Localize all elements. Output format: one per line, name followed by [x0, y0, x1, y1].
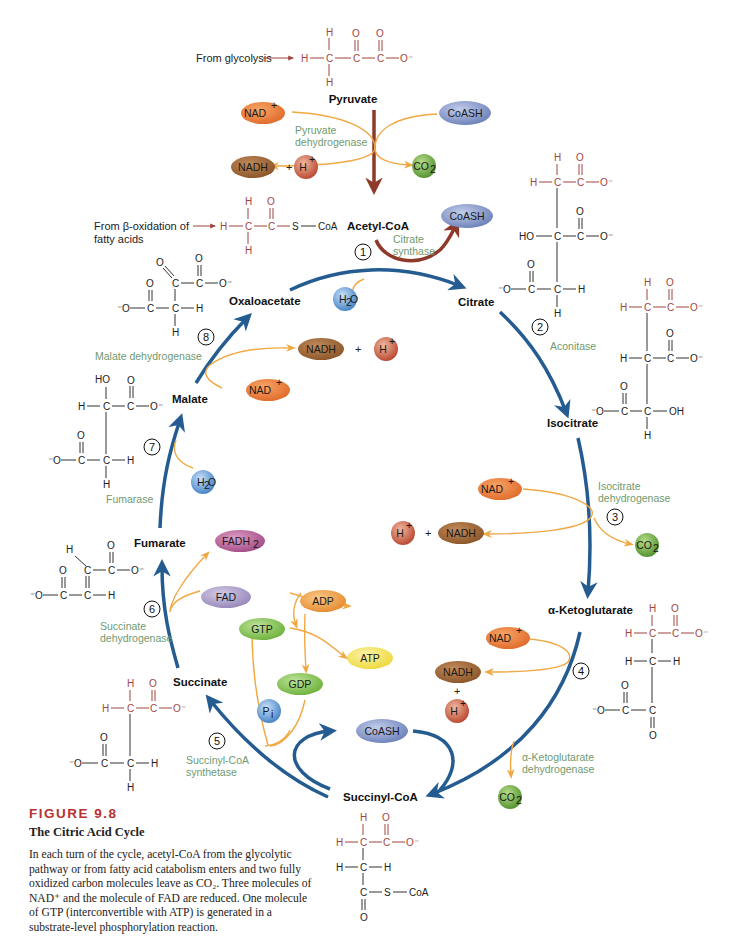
svg-text:C: C [644, 302, 651, 313]
svg-text:GTP: GTP [251, 623, 273, 635]
succinate-dehydrogenase-label: Succinate dehydrogenase [100, 620, 173, 644]
svg-text:⁻O: ⁻O [69, 758, 82, 769]
svg-text:C: C [649, 656, 656, 667]
svg-text:Succinyl-CoA: Succinyl-CoA [186, 754, 249, 766]
svg-text:O⁻: O⁻ [219, 278, 232, 289]
step-1-cycle-arrow [290, 270, 460, 290]
svg-text:2: 2 [537, 321, 543, 333]
svg-text:+: + [508, 475, 514, 487]
intermediate-malate: Malate [172, 393, 208, 405]
svg-text:C: C [644, 353, 651, 364]
svg-text:H: H [127, 782, 134, 793]
svg-text:O: O [350, 293, 358, 305]
svg-text:O⁻: O⁻ [400, 53, 413, 64]
svg-text:FADH: FADH [222, 535, 250, 547]
svg-text:C: C [127, 703, 134, 714]
svg-text:O⁻: O⁻ [600, 177, 613, 188]
intermediate-succinyl-coa: Succinyl-CoA [343, 791, 418, 803]
fumarase-label: Fumarase [106, 493, 153, 505]
svg-text:H: H [127, 455, 134, 466]
svg-text:+: + [276, 376, 282, 388]
svg-text:O: O [620, 381, 628, 392]
svg-text:S: S [384, 887, 391, 898]
svg-text:C: C [103, 401, 110, 412]
citrate-structure: H C H C O O⁻ HO C C O O⁻ ⁻O C O C H H [498, 152, 613, 319]
intermediate-acetyl-coa: Acetyl-CoA [347, 220, 409, 232]
svg-text:H: H [151, 758, 158, 769]
svg-text:H: H [220, 221, 227, 232]
svg-text:NADH: NADH [238, 161, 268, 173]
svg-text:H: H [450, 705, 458, 717]
svg-text:H: H [66, 544, 73, 555]
svg-text:C: C [360, 887, 367, 898]
svg-text:H: H [326, 77, 333, 88]
svg-text:O: O [527, 259, 535, 270]
svg-text:CoASH: CoASH [447, 107, 482, 119]
step-5-marker: 5 [209, 733, 225, 749]
h2o-ball-step7: H 2 O [191, 470, 216, 494]
svg-text:Pyruvate: Pyruvate [295, 124, 337, 136]
svg-text:H: H [396, 527, 404, 539]
step-7-cycle-arrow [160, 420, 180, 528]
svg-text:O: O [671, 603, 679, 614]
svg-text:C: C [172, 303, 179, 314]
svg-text:H: H [379, 343, 387, 355]
intermediate-succinate: Succinate [173, 676, 227, 688]
svg-text:O⁻: O⁻ [695, 628, 708, 639]
svg-text:H: H [172, 327, 179, 338]
svg-text:H: H [245, 245, 252, 256]
svg-text:H: H [530, 177, 537, 188]
svg-text:O⁻: O⁻ [600, 231, 613, 242]
svg-text:NAD: NAD [489, 632, 512, 644]
svg-text:C: C [196, 278, 203, 289]
svg-text:O: O [156, 257, 164, 268]
svg-text:Succinate: Succinate [100, 620, 146, 632]
svg-text:C: C [84, 565, 91, 576]
h-plus-ball-step3: H + [391, 519, 415, 545]
svg-text:O: O [100, 732, 108, 743]
svg-text:O: O [77, 430, 85, 441]
svg-text:NAD: NAD [249, 384, 272, 396]
co2-ball-step3: CO 2 [635, 533, 659, 557]
svg-text:ATP: ATP [360, 652, 380, 664]
svg-text:C: C [554, 177, 561, 188]
isocitrate-structure: H C H C O O⁻ H C C O O⁻ ⁻O C O C OH H [591, 277, 703, 441]
alpha-kg-dehydrogenase-label: α-Ketoglutarate dehydrogenase [522, 751, 595, 775]
intermediate-pyruvate: Pyruvate [329, 93, 378, 105]
svg-text:C: C [672, 628, 679, 639]
svg-text:H: H [644, 277, 651, 288]
svg-text:+: + [516, 624, 522, 636]
svg-text:2: 2 [516, 794, 522, 806]
svg-text:CO: CO [413, 160, 429, 172]
svg-text:2: 2 [430, 163, 436, 175]
fad-pill: FAD [201, 586, 251, 608]
svg-text:C: C [644, 406, 651, 417]
plus-sign: + [286, 161, 292, 173]
svg-text:CoASH: CoASH [364, 725, 399, 737]
svg-text:From glycolysis: From glycolysis [196, 52, 272, 64]
nadh-pill-step8: NADH [298, 338, 344, 360]
h2o-ball-step1: H 2 O [333, 287, 358, 311]
svg-text:H: H [326, 27, 333, 38]
svg-text:C: C [78, 455, 85, 466]
svg-text:O⁻: O⁻ [690, 353, 703, 364]
coash-pill-pdh: CoASH [439, 101, 491, 125]
svg-text:C: C [60, 590, 67, 601]
svg-text:C: C [150, 703, 157, 714]
coash-pill-step5: CoASH [356, 719, 408, 743]
intermediate-oxaloacetate: Oxaloacetate [229, 295, 301, 307]
svg-text:H: H [245, 196, 252, 207]
svg-text:C: C [268, 221, 275, 232]
svg-text:O: O [376, 28, 384, 39]
succinyl-coa-structure: H C H C O O⁻ H C H C S CoA O [336, 812, 429, 923]
svg-text:OH: OH [669, 406, 684, 417]
svg-text:O⁻: O⁻ [150, 401, 163, 412]
svg-text:CoA: CoA [318, 221, 338, 232]
svg-text:+: + [406, 519, 412, 531]
svg-text:O: O [621, 680, 629, 691]
svg-text:⁻O: ⁻O [591, 406, 604, 417]
svg-text:O: O [195, 253, 203, 264]
svg-text:C: C [622, 705, 629, 716]
step-3-cycle-arrow [578, 438, 590, 592]
svg-text:C: C [649, 705, 656, 716]
